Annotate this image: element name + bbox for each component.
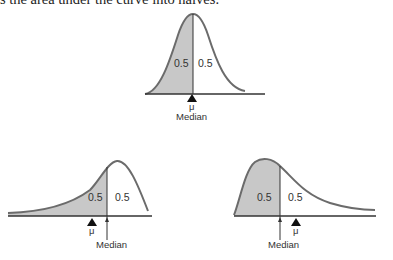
left-area-label: 0.5 [174,57,189,69]
right-area-label: 0.5 [115,191,130,203]
left-area-label: 0.5 [88,191,103,203]
mu-label: μ [293,225,298,236]
symmetric-distribution: 0.5 0.5 μ Median [145,14,265,122]
left-shaded-area [145,14,193,94]
left-area-label: 0.5 [257,191,272,203]
median-label: Median [96,239,127,250]
right-skewed-distribution: 0.5 0.5 μ Median [234,159,376,250]
curve [145,14,245,94]
median-label: Median [268,239,299,250]
left-skewed-distribution: 0.5 0.5 μ Median [8,161,152,250]
mu-label: μ [89,225,94,236]
median-arrow-icon [105,217,109,222]
right-area-label: 0.5 [288,191,303,203]
distribution-diagrams: 0.5 0.5 μ Median 0.5 0.5 μ Median 0.5 0.… [0,0,393,260]
right-area-label: 0.5 [198,57,213,69]
median-arrow-icon [278,217,282,222]
left-shaded-area [234,159,280,216]
median-label: Median [176,111,207,122]
